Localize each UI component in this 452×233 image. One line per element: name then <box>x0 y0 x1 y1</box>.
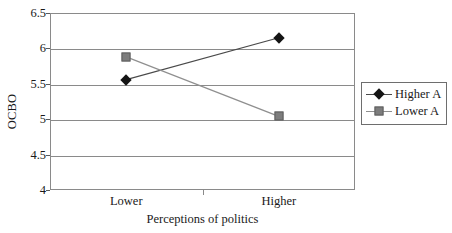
diamond-marker-icon <box>366 88 392 101</box>
legend-label-lower-a: Lower A <box>395 105 439 118</box>
series-line <box>126 38 279 80</box>
legend-label-higher-a: Higher A <box>395 88 441 101</box>
legend-item-higher-a[interactable]: Higher A <box>366 86 442 103</box>
legend-item-lower-a[interactable]: Lower A <box>366 103 442 120</box>
series-line <box>126 57 279 116</box>
square-marker-icon <box>366 105 392 118</box>
interaction-plot-figure: 44.555.566.5 OCBO LowerHigher Perception… <box>0 0 452 233</box>
legend-box: Higher A Lower A <box>361 82 447 125</box>
